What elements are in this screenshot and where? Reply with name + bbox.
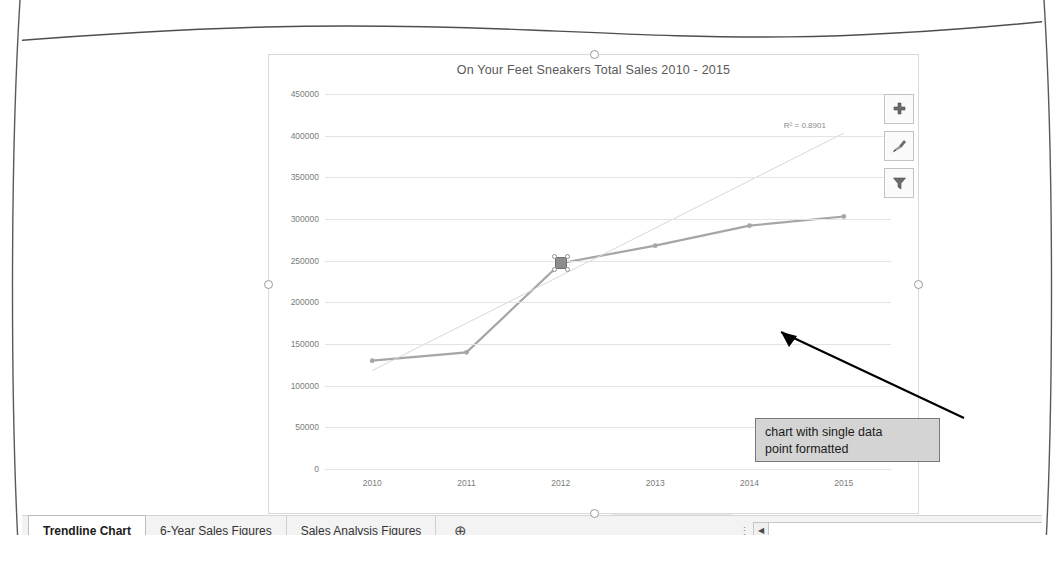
data-point-marker[interactable] [747,223,752,228]
y-axis-tick-label: 100000 [291,381,319,391]
gridline [325,219,891,220]
sheet-tab-label: Trendline Chart [43,524,131,538]
x-axis-tick-label: 2015 [834,478,853,488]
y-axis-tick-label: 50000 [295,422,319,432]
fx-icon: fx [157,20,165,32]
desktop-strip [0,545,1060,579]
formula-input-left[interactable]: =SERIES( [188,21,238,33]
callout-text: chart with single data point formatted [765,424,933,458]
gridline [325,469,891,470]
scroll-left-arrow[interactable]: ◀ [754,523,769,538]
horizontal-scrollbar[interactable]: ◀ [753,522,1048,539]
formula-divider-2 [180,18,181,34]
chart-side-buttons [884,94,914,205]
callout-arrow [749,320,979,430]
sheet-tab-0[interactable]: Trendline Chart [28,515,146,546]
y-axis-tick-label: 200000 [291,297,319,307]
formula-bar: fx =SERIES( gures !$B$4:$G$4, 6 [0,0,1060,40]
y-axis-tick-label: 450000 [291,89,319,99]
sheet-tabs: Trendline Chart6-Year Sales FiguresSales… [28,516,484,546]
point-handle-top-left[interactable] [552,254,557,259]
gridline [325,261,891,262]
chart-resize-handle-bottom[interactable] [590,509,599,518]
add-sheet-button[interactable]: ⊕ [436,516,484,546]
sheet-tab-bar: Trendline Chart6-Year Sales FiguresSales… [0,515,1060,545]
callout-textbox[interactable]: chart with single data point formatted [755,418,940,462]
gridline [325,177,891,178]
chart-styles-button[interactable] [884,131,914,161]
paintbrush-icon [891,138,907,154]
chart-filters-button[interactable] [884,168,914,198]
grid-icon[interactable] [1021,551,1038,568]
chart-object[interactable]: On Your Feet Sneakers Total Sales 2010 -… [268,54,919,514]
y-axis-tick-label: 150000 [291,339,319,349]
point-handle-top-right[interactable] [565,254,570,259]
gridline [325,136,891,137]
sheet-tab-label: Sales Analysis Figures [301,524,422,538]
data-point-marker[interactable] [653,243,658,248]
data-point-marker[interactable] [370,358,375,363]
point-handle-bottom-right[interactable] [565,267,570,272]
tab-overflow-dots[interactable]: ⋮ [739,525,751,538]
x-axis-tick-label: 2010 [363,478,382,488]
worksheet-area[interactable]: On Your Feet Sneakers Total Sales 2010 -… [0,40,1060,515]
funnel-icon [892,176,907,191]
selected-data-point[interactable] [553,255,569,271]
y-axis-tick-label: 250000 [291,256,319,266]
chart-title[interactable]: On Your Feet Sneakers Total Sales 2010 -… [269,63,918,77]
y-axis-tick-label: 0 [314,464,319,474]
y-axis-tick-label: 400000 [291,131,319,141]
x-axis-tick-label: 2013 [646,478,665,488]
data-point-marker[interactable] [464,350,469,355]
plus-icon [892,102,907,117]
chart-resize-handle-right[interactable] [914,280,923,289]
chart-resize-handle-left[interactable] [264,280,273,289]
callout-line-1: chart with single data [765,424,933,441]
chart-resize-handle-top[interactable] [590,50,599,59]
chart-elements-button[interactable] [884,94,914,124]
gridline [325,302,891,303]
callout-line-2: point formatted [765,441,933,458]
trendline-r2-label[interactable]: R² = 0.8901 [784,121,826,130]
sheet-tab-2[interactable]: Sales Analysis Figures [287,516,437,546]
gridline [325,94,891,95]
formula-divider-1 [176,18,177,34]
x-axis-tick-label: 2012 [551,478,570,488]
x-axis-tick-label: 2011 [457,478,475,488]
y-axis-tick-label: 300000 [291,214,319,224]
sheet-tab-1[interactable]: 6-Year Sales Figures [146,516,287,546]
x-axis-tick-label: 2014 [740,478,759,488]
y-axis-tick-label: 350000 [291,172,319,182]
excel-window: fx =SERIES( gures !$B$4:$G$4, 6 On Your … [0,0,1060,579]
formula-input-right[interactable]: gures !$B$4:$G$4, 6 [487,21,589,33]
point-handle-bottom-left[interactable] [552,267,557,272]
sheet-tab-label: 6-Year Sales Figures [160,524,272,538]
